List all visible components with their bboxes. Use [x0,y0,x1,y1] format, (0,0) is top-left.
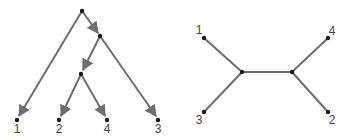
leaf-label-2: 2 [329,113,336,127]
leaf-label-3: 3 [196,113,203,127]
edge-a-leaf3 [100,36,156,116]
edge-left-leaf1 [204,38,242,72]
edge-root-a [82,11,98,33]
rooted-tree: 1 2 4 3 [14,9,162,136]
edge-a-b [83,36,100,70]
internal-node-a [98,34,102,38]
phylogenetic-trees: 1 2 4 3 1 4 3 2 [0,0,350,140]
leaf-label-1: 1 [14,122,21,136]
edge-root-leaf1 [19,11,82,116]
leaf-node-1 [202,36,206,40]
internal-node-b [79,72,83,76]
internal-node-left [240,70,244,74]
edge-b-leaf4 [81,74,105,116]
unrooted-tree: 1 4 3 2 [196,23,336,127]
leaf-label-4: 4 [104,122,111,136]
root-node [80,9,84,13]
internal-node-right [290,70,294,74]
leaf-label-4: 4 [329,24,336,38]
edge-b-leaf2 [61,74,81,116]
leaf-label-2: 2 [56,122,63,136]
leaf-label-1: 1 [196,23,203,37]
edge-right-leaf4 [292,38,328,72]
leaf-label-3: 3 [155,122,162,136]
leaf-node-3 [202,110,206,114]
edge-left-leaf3 [204,72,242,112]
edge-right-leaf2 [292,72,328,112]
